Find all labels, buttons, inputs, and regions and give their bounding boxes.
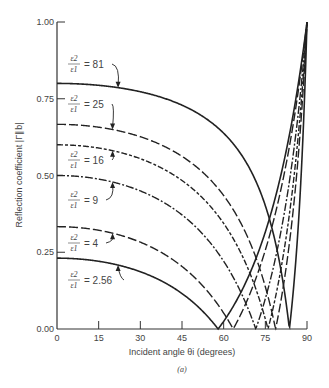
x-axis-title: Incident angle θi (degrees) (129, 347, 236, 357)
x-tick-label: 75 (260, 333, 270, 343)
y-tick-label: 0.50 (36, 171, 54, 181)
fraction-numerator: ε2 (70, 270, 77, 279)
y-tick-label: 0.75 (36, 94, 54, 104)
fraction-numerator: ε2 (70, 150, 77, 159)
fraction-numerator: ε2 (70, 94, 77, 103)
x-tick-label: 15 (94, 333, 104, 343)
x-tick-label: 60 (219, 333, 229, 343)
fraction-denominator: ε1 (70, 201, 77, 210)
annotations: ε2ε1= 81ε2ε1= 25ε2ε1= 16ε2ε1= 9ε2ε1= 4ε2… (68, 54, 124, 290)
ratio-value: = 16 (84, 155, 104, 166)
y-axis-title: Reflection coefficient |Γ∥b| (14, 122, 24, 227)
figure-caption: (a) (177, 365, 187, 374)
fraction-denominator: ε1 (70, 65, 77, 74)
annotation-eps-2_56: ε2ε1= 2.56 (68, 265, 124, 290)
y-tick-label: 0.00 (36, 324, 54, 334)
fraction-denominator: ε1 (70, 281, 77, 290)
ratio-value: = 9 (84, 195, 99, 206)
fraction-denominator: ε1 (70, 161, 77, 170)
y-tick-label: 1.00 (36, 17, 54, 27)
annotation-eps-16: ε2ε1= 16 (68, 150, 115, 170)
x-tick-label: 30 (135, 333, 145, 343)
ratio-value: = 4 (84, 238, 99, 249)
arrow-head-icon (110, 233, 115, 239)
axes: 01530456075900.000.250.500.751.00 (36, 17, 312, 343)
fraction-numerator: ε2 (70, 233, 77, 242)
x-tick-label: 45 (177, 333, 187, 343)
fraction-numerator: ε2 (70, 54, 77, 63)
fraction-numerator: ε2 (70, 190, 77, 199)
ratio-value: = 25 (84, 99, 104, 110)
x-tick-label: 90 (302, 333, 312, 343)
annotation-eps-4: ε2ε1= 4 (68, 233, 115, 253)
ratio-value: = 81 (84, 59, 104, 70)
annotation-eps-81: ε2ε1= 81 (68, 54, 121, 88)
ratio-value: = 2.56 (84, 275, 113, 286)
annotation-eps-9: ε2ε1= 9 (68, 182, 115, 210)
y-tick-label: 0.25 (36, 247, 54, 257)
fraction-denominator: ε1 (70, 105, 77, 114)
reflection-coefficient-chart: 01530456075900.000.250.500.751.00 ε2ε1= … (0, 0, 329, 388)
fraction-denominator: ε1 (70, 244, 77, 253)
x-tick-label: 0 (54, 333, 59, 343)
